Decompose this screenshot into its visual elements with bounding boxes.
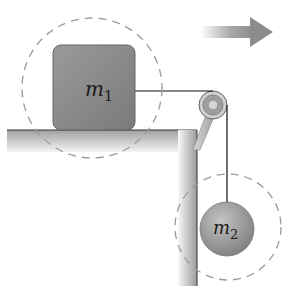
m2-subscript: 2: [230, 227, 238, 242]
m1-label: m: [85, 77, 104, 101]
sphere-m2: m2: [200, 202, 254, 256]
pulley-icon: [199, 91, 227, 119]
pulley-diagram: m1 m2: [0, 0, 291, 286]
m1-subscript: 1: [104, 88, 113, 104]
direction-arrow-icon: [200, 17, 273, 47]
m2-label: m: [213, 217, 230, 238]
block-m1: m1: [53, 45, 135, 130]
table: [7, 130, 197, 286]
